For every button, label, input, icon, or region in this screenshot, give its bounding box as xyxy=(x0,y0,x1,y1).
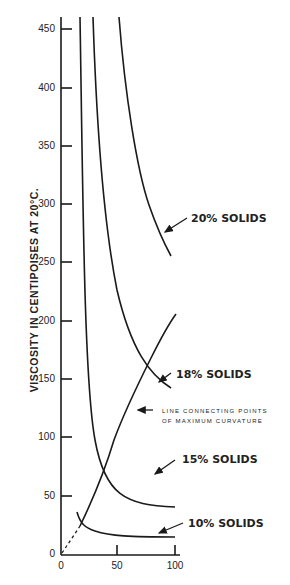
svg-text:200: 200 xyxy=(38,315,55,326)
y-ticks xyxy=(61,29,72,496)
series-18-percent xyxy=(93,17,171,388)
series-15-percent xyxy=(80,17,175,507)
arrow-20-percent-icon xyxy=(165,218,187,232)
svg-text:250: 250 xyxy=(38,256,55,267)
label-18-percent-solids: 18% SOLIDS xyxy=(176,368,252,381)
svg-text:50: 50 xyxy=(44,490,56,501)
svg-text:450: 450 xyxy=(38,23,55,34)
label-max-curvature-line1: LINE CONNECTING POINTS xyxy=(162,408,268,414)
label-20-percent-solids: 20% SOLIDS xyxy=(191,212,267,225)
arrow-18-percent-icon xyxy=(159,373,171,382)
label-15-percent-solids: 15% SOLIDS xyxy=(182,453,258,466)
svg-text:350: 350 xyxy=(38,140,55,151)
y-tick-labels: 450 400 350 300 250 200 150 100 50 0 xyxy=(38,23,55,559)
arrow-10-percent-icon xyxy=(159,523,183,533)
viscosity-chart: VISCOSITY IN CENTIPOISES AT 20°C. 450 40… xyxy=(0,0,290,585)
svg-text:50: 50 xyxy=(111,560,123,571)
y-axis-label: VISCOSITY IN CENTIPOISES AT 20°C. xyxy=(28,188,40,392)
series-20-percent xyxy=(119,17,171,256)
svg-text:0: 0 xyxy=(58,560,64,571)
svg-text:150: 150 xyxy=(38,373,55,384)
svg-text:300: 300 xyxy=(38,198,55,209)
svg-text:0: 0 xyxy=(49,548,55,559)
label-max-curvature-line2: OF MAXIMUM CURVATURE xyxy=(162,418,263,424)
max-curvature-dashed-extension xyxy=(62,526,80,553)
svg-text:100: 100 xyxy=(167,560,184,571)
arrow-15-percent-icon xyxy=(155,460,175,474)
svg-text:400: 400 xyxy=(38,82,55,93)
series-10-percent xyxy=(77,512,175,537)
x-tick-labels: 0 50 100 xyxy=(58,560,184,571)
x-ticks xyxy=(117,545,175,555)
svg-text:100: 100 xyxy=(38,431,55,442)
label-10-percent-solids: 10% SOLIDS xyxy=(188,517,264,530)
